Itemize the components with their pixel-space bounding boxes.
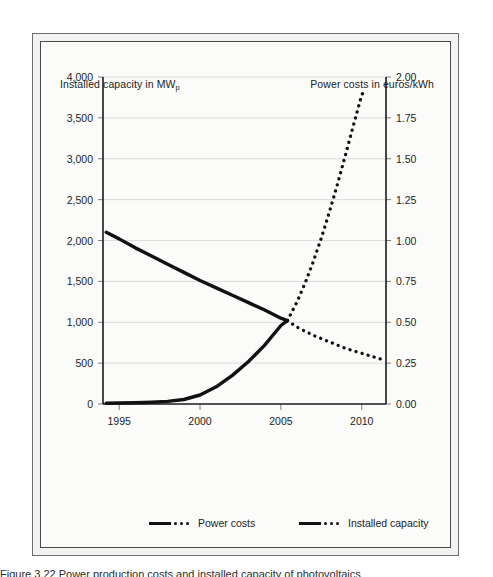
- chart-plot: 05001,0001,5002,0002,5003,0003,5004,0000…: [41, 42, 452, 549]
- series-paths: [106, 89, 383, 403]
- figure-outer-frame: Installed capacity in MWp Power costs in…: [32, 33, 459, 556]
- gridlines: [103, 77, 386, 363]
- legend-swatch-line-dotted-icon: [149, 518, 191, 529]
- y-axis-tick-label: 2,500: [67, 194, 93, 206]
- figure-inner-panel: Installed capacity in MWp Power costs in…: [40, 41, 451, 548]
- y2-axis-tick-label: 1.00: [396, 235, 417, 247]
- y2-axis-tick-label: 1.50: [396, 153, 417, 165]
- figure-caption-clipped: Figure 3.22 Power production costs and i…: [0, 570, 493, 577]
- y-axis-tick-label: 0: [87, 398, 93, 410]
- y2-axis-tick-label: 1.75: [396, 112, 417, 124]
- y-axis-tick-label: 3,000: [67, 153, 93, 165]
- y2-axis-tick-label: 0.00: [396, 398, 417, 410]
- y2-axis-tick-label: 1.25: [396, 194, 417, 206]
- legend-item-power-costs: Power costs: [149, 508, 255, 538]
- x-axis-tick-label: 2005: [269, 415, 293, 427]
- figure-caption-text: Figure 3.22 Power production costs and i…: [0, 570, 493, 577]
- y-axis-tick-label: 4,000: [67, 71, 93, 83]
- legend-label-installed-capacity: Installed capacity: [348, 517, 429, 529]
- y2-axis-tick-label: 0.50: [396, 316, 417, 328]
- legend-swatch-line-dotted-icon: [299, 518, 341, 529]
- y2-axis-tick-label: 0.75: [396, 275, 417, 287]
- x-axis-tick-label: 2000: [188, 415, 212, 427]
- y-axis-tick-label: 1,000: [67, 316, 93, 328]
- y-axis-tick-label: 3,500: [67, 112, 93, 124]
- y-axis-tick-label: 2,000: [67, 235, 93, 247]
- tick-marks: [98, 77, 391, 410]
- series-installed-capacity-historical: [106, 321, 287, 404]
- tick-labels: 05001,0001,5002,0002,5003,0003,5004,0000…: [67, 71, 417, 427]
- series-installed-capacity-projection: [287, 89, 365, 320]
- legend-label-power-costs: Power costs: [198, 517, 255, 529]
- y2-axis-tick-label: 0.25: [396, 357, 417, 369]
- series-power-costs-projection: [287, 321, 382, 360]
- chart-legend: Power costs Installed capacity: [41, 508, 450, 538]
- x-axis-tick-label: 2010: [350, 415, 374, 427]
- x-axis-tick-label: 1995: [107, 415, 131, 427]
- y2-axis-tick-label: 2.00: [396, 71, 417, 83]
- y-axis-tick-label: 500: [75, 357, 93, 369]
- legend-item-installed-capacity: Installed capacity: [299, 508, 429, 538]
- y-axis-tick-label: 1,500: [67, 275, 93, 287]
- series-power-costs-historical: [106, 232, 287, 320]
